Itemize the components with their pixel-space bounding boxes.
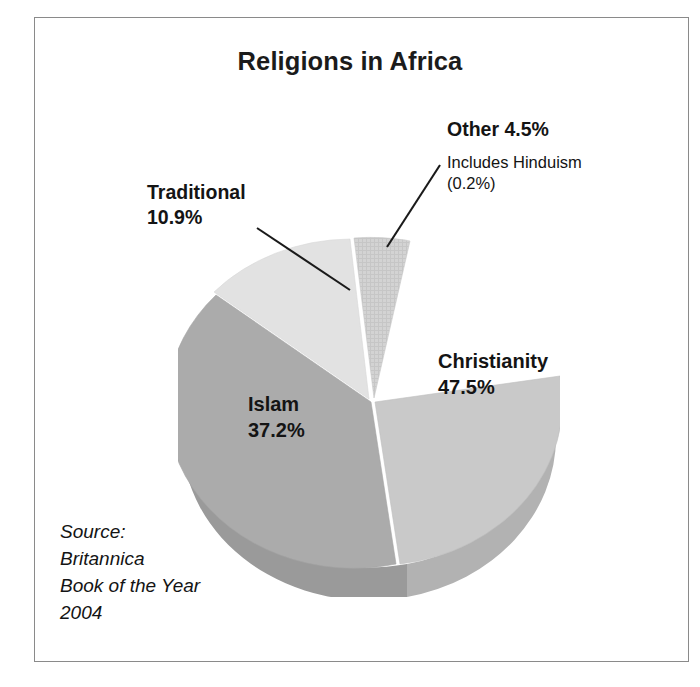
source-note: Source: Britannica Book of the Year 2004 [60,519,200,627]
slice-label-other: Other 4.5% [447,117,549,142]
pie-chart [178,222,560,597]
pie-slice-christianity [375,376,560,564]
slice-note-other: Includes Hinduism (0.2%) [447,152,582,194]
page-title: Religions in Africa [0,45,700,78]
slice-label-christianity: Christianity 47.5% [438,349,548,400]
pie-top-face [178,237,560,568]
slice-label-islam: Islam 37.2% [248,392,305,443]
slice-label-traditional: Traditional 10.9% [147,180,246,230]
pie-chart-svg [178,222,560,597]
